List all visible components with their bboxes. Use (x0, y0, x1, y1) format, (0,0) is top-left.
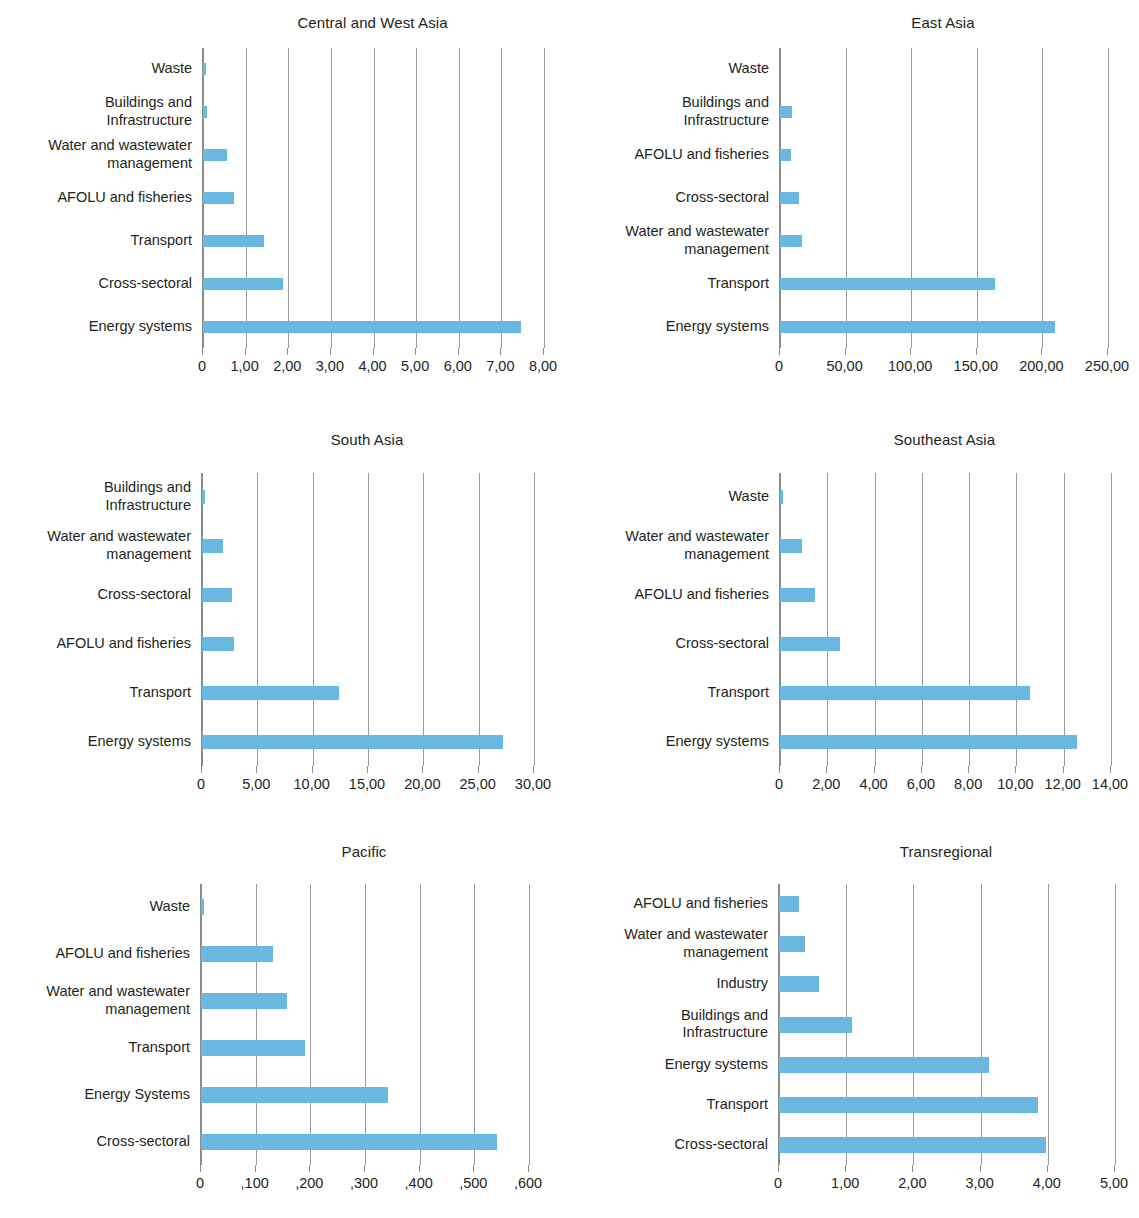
category-labels: WasteWater and wastewater managementAFOL… (570, 473, 769, 766)
category-label: Cross-sectoral (0, 1133, 190, 1151)
gridline (310, 884, 311, 1165)
gridline (534, 473, 535, 766)
bar (780, 588, 815, 602)
bar (779, 1057, 989, 1073)
category-label: Water and wastewater management (548, 927, 768, 962)
x-tick-mark (921, 766, 922, 773)
x-tick-label: 5,00 (242, 776, 270, 792)
gridline (1016, 473, 1017, 766)
bar (202, 588, 232, 602)
plot-canvas (201, 473, 533, 766)
bar (201, 1087, 388, 1103)
x-tick-mark (528, 1165, 529, 1172)
gridline (911, 48, 912, 348)
x-tick-mark (419, 1165, 420, 1172)
bar (780, 490, 783, 504)
x-tick-mark (826, 766, 827, 773)
category-labels: AFOLU and fisheriesWater and wastewater … (570, 884, 768, 1165)
chart-title: Transregional (570, 843, 1139, 860)
category-label: Waste (549, 489, 769, 507)
gridline (331, 48, 332, 348)
gridline (423, 473, 424, 766)
gridline (416, 48, 417, 348)
bar (779, 1137, 1046, 1153)
x-tick-label: 3,00 (965, 1175, 993, 1191)
x-tick-mark (312, 766, 313, 773)
gridline (529, 884, 530, 1165)
chart-panel-transregional: Transregional AFOLU and fisheriesWater a… (570, 825, 1139, 1218)
gridline (257, 473, 258, 766)
x-tick-label: 2,00 (273, 358, 301, 374)
category-label: Energy systems (549, 733, 769, 751)
gridline (544, 48, 545, 348)
x-tick-label: 4,00 (1033, 1175, 1061, 1191)
bar (779, 976, 819, 992)
x-tick-mark (200, 1165, 201, 1172)
gridline (1048, 884, 1049, 1165)
category-label: Waste (0, 899, 190, 917)
plot-area (779, 473, 1110, 766)
bar (203, 63, 206, 75)
x-tick-label: 0 (775, 358, 783, 374)
gridline (1108, 48, 1109, 348)
bar (201, 1040, 305, 1056)
x-tick-label: 25,00 (460, 776, 496, 792)
chart-panel-central-and-west-asia: Central and West Asia WasteBuildings and… (0, 0, 570, 410)
gridline (875, 473, 876, 766)
plot-canvas (778, 884, 1114, 1165)
gridline (977, 48, 978, 348)
x-tick-mark (912, 1165, 913, 1172)
category-label: Water and wastewater management (549, 529, 769, 564)
x-tick-mark (415, 348, 416, 355)
x-tick-mark (245, 348, 246, 355)
category-label: AFOLU and fisheries (548, 895, 768, 913)
x-tick-mark (478, 766, 479, 773)
category-label: Water and wastewater management (0, 983, 190, 1018)
x-tick-mark (910, 348, 911, 355)
bar (780, 106, 792, 118)
x-tick-mark (845, 1165, 846, 1172)
category-label: Cross-sectoral (548, 1136, 768, 1154)
chart-panel-southeast-asia: Southeast Asia WasteWater and wastewater… (570, 410, 1139, 825)
bar (780, 686, 1030, 700)
chart-title: South Asia (0, 431, 570, 448)
x-tick-mark (779, 766, 780, 773)
category-label: Cross-sectoral (0, 586, 191, 604)
gridline (827, 473, 828, 766)
x-tick-mark (364, 1165, 365, 1172)
plot-canvas (202, 48, 543, 348)
x-tick-mark (779, 348, 780, 355)
category-label: Energy systems (0, 733, 191, 751)
gridline (1064, 473, 1065, 766)
gridline (313, 473, 314, 766)
category-label: Energy systems (549, 318, 769, 336)
x-tick-mark (1041, 348, 1042, 355)
x-tick-label: 2,00 (898, 1175, 926, 1191)
x-tick-label: 2,00 (812, 776, 840, 792)
x-tick-mark (256, 766, 257, 773)
category-label: AFOLU and fisheries (549, 146, 769, 164)
x-tick-mark (543, 348, 544, 355)
category-labels: WasteBuildings and InfrastructureWater a… (0, 48, 192, 348)
category-label: Transport (0, 1039, 190, 1057)
x-tick-mark (1047, 1165, 1048, 1172)
category-label: Water and wastewater management (549, 223, 769, 258)
plot-canvas (779, 48, 1107, 348)
plot-canvas (200, 884, 528, 1165)
category-labels: WasteAFOLU and fisheriesWater and wastew… (0, 884, 190, 1165)
bar (780, 539, 802, 553)
category-label: Transport (548, 1096, 768, 1114)
category-label: Buildings and Infrastructure (548, 1007, 768, 1042)
gridline (1115, 884, 1116, 1165)
x-tick-label: 0 (774, 1175, 782, 1191)
category-label: Transport (0, 232, 192, 250)
gridline (368, 473, 369, 766)
x-tick-label: ,100 (241, 1175, 269, 1191)
x-tick-label: ,300 (350, 1175, 378, 1191)
x-tick-label: 0 (196, 1175, 204, 1191)
bar (203, 192, 234, 204)
category-labels: WasteBuildings and InfrastructureAFOLU a… (570, 48, 769, 348)
chart-panel-east-asia: East Asia WasteBuildings and Infrastruct… (570, 0, 1139, 410)
x-tick-mark (1110, 766, 1111, 773)
x-tick-mark (845, 348, 846, 355)
